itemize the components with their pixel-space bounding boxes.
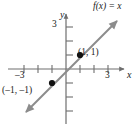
y-axis-label: y	[60, 10, 64, 20]
function-line-fx-equals-x	[26, 21, 117, 112]
x-tick-label-3: 3	[105, 71, 110, 81]
graph-figure: y x 3 3 –3 (1, 1) (–1, –1) f(x) = x	[0, 0, 140, 128]
x-axis-label: x	[127, 70, 131, 80]
x-tick-label-negative-3: –3	[15, 71, 25, 81]
point-label-negative-1-negative-1: (–1, –1)	[2, 86, 32, 96]
point-marker-neg1-neg1	[49, 80, 55, 86]
point-label-1-1: (1, 1)	[78, 48, 99, 58]
function-equation-label: f(x) = x	[93, 2, 122, 12]
y-tick-label-3: 3	[52, 20, 57, 30]
coordinate-plane-svg	[0, 0, 140, 128]
